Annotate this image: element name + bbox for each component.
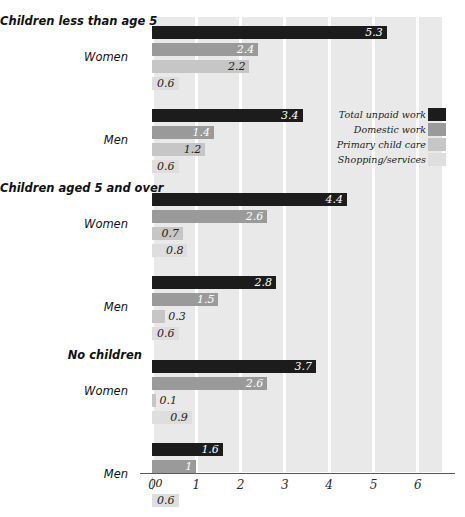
bar-value-label: 0.6 <box>157 494 175 507</box>
bar-value-label: 0.3 <box>168 310 186 323</box>
bar: 0.7 <box>152 227 183 240</box>
legend-label: Shopping/services <box>338 153 426 166</box>
subgroup-label-men: Men <box>0 467 128 481</box>
x-tick-label: 2 <box>226 478 256 492</box>
chart-legend: Total unpaid workDomestic workPrimary ch… <box>330 108 446 168</box>
bar: 0.1 <box>152 394 156 407</box>
legend-label: Domestic work <box>354 123 426 136</box>
bar: 2.8 <box>152 276 276 289</box>
gridline-6 <box>416 17 419 472</box>
bar: 2.6 <box>152 377 267 390</box>
subgroup-label-women: Women <box>0 384 128 398</box>
bar-value-label: 0.6 <box>157 327 175 340</box>
x-tick-label: 3 <box>270 478 300 492</box>
x-tick-label: 0 <box>137 478 167 492</box>
gridline-2 <box>239 17 242 472</box>
bar: 0.6 <box>152 77 179 90</box>
x-tick-label: 5 <box>359 478 389 492</box>
legend-item: Domestic work <box>330 123 446 136</box>
gridline-5 <box>372 17 375 472</box>
subgroup-label-women: Women <box>0 50 128 64</box>
legend-label: Total unpaid work <box>339 108 426 121</box>
bar: 2.4 <box>152 43 258 56</box>
bar-value-label: 4.4 <box>325 193 343 206</box>
gridline-3 <box>283 17 286 472</box>
legend-item: Shopping/services <box>330 153 446 166</box>
bar: 1 <box>152 460 196 473</box>
bar-value-label: 2.2 <box>228 60 246 73</box>
gridline-1 <box>195 17 198 472</box>
bar-value-label: 1.2 <box>184 143 202 156</box>
legend-swatch <box>428 153 446 166</box>
group-header: Children less than age 5 <box>0 14 142 28</box>
bar: 0.8 <box>152 244 187 257</box>
grouped-bar-chart: 5.32.42.20.63.41.41.20.64.42.60.70.82.81… <box>0 0 465 517</box>
bar-value-label: 2.4 <box>237 43 255 56</box>
legend-swatch <box>428 123 446 136</box>
group-header: No children <box>0 348 142 362</box>
bar-value-label: 2.8 <box>255 276 273 289</box>
bar-value-label: 3.7 <box>294 360 312 373</box>
bar: 3.4 <box>152 109 303 122</box>
legend-swatch <box>428 108 446 121</box>
plot-area <box>152 17 442 472</box>
bar: 3.7 <box>152 360 316 373</box>
bar-value-label: 0.6 <box>157 160 175 173</box>
bar-value-label: 0.9 <box>170 411 188 424</box>
x-axis-line <box>140 473 455 474</box>
bar: 0.6 <box>152 327 179 340</box>
bar: 2.6 <box>152 210 267 223</box>
bar: 5.3 <box>152 26 387 39</box>
bar-value-label: 5.3 <box>365 26 383 39</box>
bar: 0.6 <box>152 494 179 507</box>
bar-value-label: 0.6 <box>157 77 175 90</box>
bar: 4.4 <box>152 193 347 206</box>
bar: 0.3 <box>152 310 165 323</box>
legend-item: Total unpaid work <box>330 108 446 121</box>
bar: 0.9 <box>152 411 192 424</box>
bar-value-label: 2.6 <box>246 377 264 390</box>
subgroup-label-men: Men <box>0 300 128 314</box>
bar-value-label: 0.7 <box>162 227 180 240</box>
bar-value-label: 0.1 <box>159 394 177 407</box>
x-tick-label: 6 <box>403 478 433 492</box>
bar: 0.6 <box>152 160 179 173</box>
bar: 1.4 <box>152 126 214 139</box>
x-tick-label: 1 <box>181 478 211 492</box>
legend-item: Primary child care <box>330 138 446 151</box>
legend-label: Primary child care <box>337 138 426 151</box>
x-tick-label: 4 <box>314 478 344 492</box>
bar-value-label: 0.8 <box>166 244 184 257</box>
bar: 1.2 <box>152 143 205 156</box>
bar-value-label: 2.6 <box>246 210 264 223</box>
bar: 1.5 <box>152 293 218 306</box>
bar-value-label: 1 <box>185 460 192 473</box>
bar-value-label: 1.6 <box>201 443 219 456</box>
group-header: Children aged 5 and over <box>0 181 142 195</box>
bar-value-label: 1.4 <box>193 126 211 139</box>
bar: 2.2 <box>152 60 249 73</box>
gridline-4 <box>328 17 331 472</box>
subgroup-label-women: Women <box>0 217 128 231</box>
subgroup-label-men: Men <box>0 133 128 147</box>
bar: 1.6 <box>152 443 223 456</box>
bar-value-label: 1.5 <box>197 293 215 306</box>
legend-swatch <box>428 138 446 151</box>
bar-value-label: 3.4 <box>281 109 299 122</box>
